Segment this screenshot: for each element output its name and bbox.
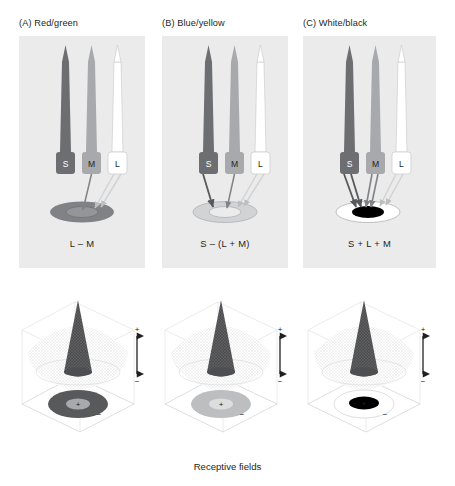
cone-body-l-a: L: [108, 152, 127, 174]
cone-label-s-a: S: [63, 159, 69, 169]
cone-s-a: [60, 45, 71, 152]
figure-artwork: S M L: [0, 0, 455, 486]
receptive-field-plot-a: + − + −: [22, 300, 140, 432]
cone-body-s-a: S: [56, 152, 75, 174]
cone-label-s-c: S: [347, 159, 353, 169]
ganglion-b: [193, 202, 257, 223]
cone-body-s-c: S: [340, 152, 359, 174]
cone-s-c: [344, 45, 355, 152]
cone-label-m-a: M: [88, 159, 95, 169]
receptive-fields-figure: (A) Red/green (B) Blue/yellow (C) White/…: [0, 0, 455, 486]
ganglion-c: [336, 202, 400, 223]
axis-plus-c: +: [421, 325, 426, 334]
cone-m-c: [370, 45, 381, 152]
peak-base-c: [350, 368, 378, 377]
cone-l-b: [255, 45, 266, 152]
surround-sign-a: −: [97, 410, 102, 419]
peak-base-b: [207, 368, 235, 377]
cone-l-a: [112, 45, 123, 152]
cone-label-l-b: L: [258, 159, 263, 169]
peak-base-a: [64, 368, 92, 377]
axis-plus-a: +: [135, 325, 140, 334]
receptive-field-plot-c: + − + −: [308, 300, 426, 432]
axis-minus-c: −: [421, 377, 426, 386]
axis-plus-b: +: [278, 325, 283, 334]
cone-l-c: [396, 45, 407, 152]
figure-caption: Receptive fields: [0, 461, 455, 472]
cone-m-b: [229, 45, 240, 152]
cone-m-a: [86, 45, 97, 152]
center-sign-a: +: [76, 400, 81, 409]
surround-sign-b: −: [240, 410, 245, 419]
connection-s1-c: [344, 174, 356, 207]
cone-body-l-b: L: [251, 152, 270, 174]
center-sign-c: +: [362, 399, 367, 408]
ganglion-a: [50, 202, 114, 223]
cone-body-m-b: M: [225, 152, 244, 174]
cone-label-l-c: L: [399, 159, 404, 169]
cone-s-b: [203, 45, 214, 152]
panel-a-diagram: S M L: [50, 45, 127, 223]
axis-minus-a: −: [135, 377, 140, 386]
connection-s-b: [203, 174, 213, 207]
cone-label-s-b: S: [206, 159, 212, 169]
cone-body-s-b: S: [199, 152, 218, 174]
cone-label-m-b: M: [231, 159, 238, 169]
panel-c-diagram: S M L: [336, 45, 411, 223]
cone-body-m-c: M: [366, 152, 385, 174]
axis-minus-b: −: [278, 377, 283, 386]
surround-sign-c: −: [383, 410, 388, 419]
cone-label-m-c: M: [372, 159, 379, 169]
cone-body-m-a: M: [82, 152, 101, 174]
cone-body-l-c: L: [392, 152, 411, 174]
panel-b-diagram: S M L: [193, 45, 270, 223]
receptive-field-plot-b: + − + −: [165, 300, 283, 432]
cone-label-l-a: L: [115, 159, 120, 169]
center-sign-b: +: [219, 400, 224, 409]
